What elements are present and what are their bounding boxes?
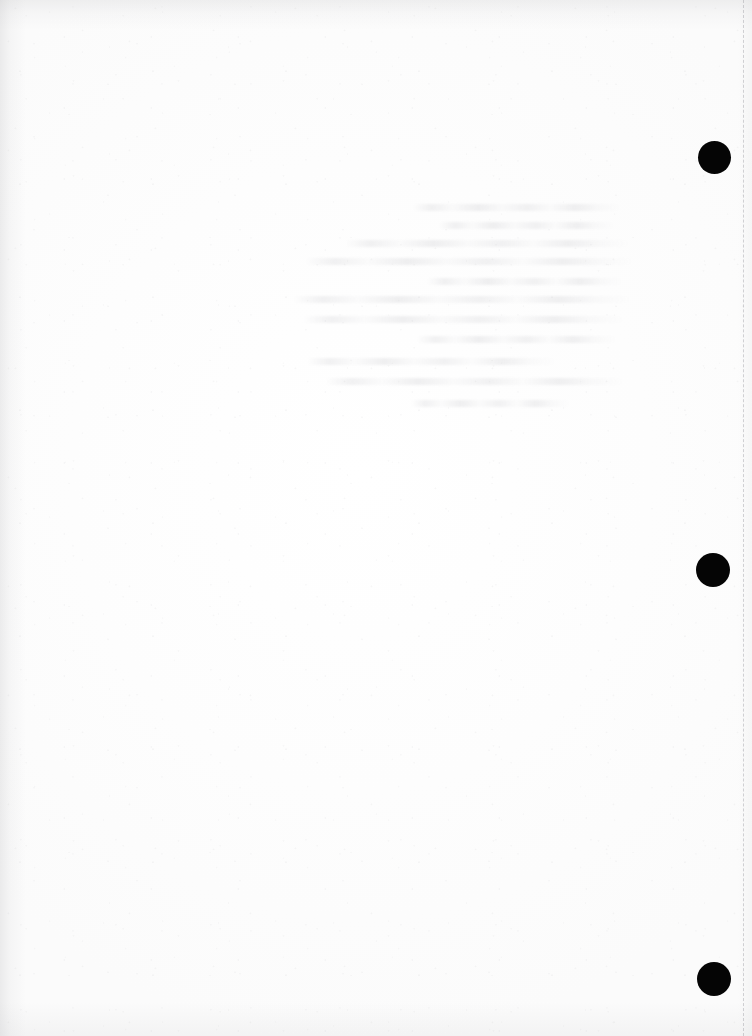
- registration-dot-middle: [696, 553, 730, 587]
- paper-grain-texture: [0, 0, 752, 1036]
- page-edge-shadow-left: [0, 0, 26, 1036]
- page-edge-shadow-right: [738, 0, 752, 1036]
- page-edge-shadow-bottom: [0, 1002, 752, 1036]
- page-edge-shadow-top: [0, 0, 752, 30]
- scanned-document-page: [0, 0, 752, 1036]
- registration-dot-top: [698, 141, 731, 174]
- dashed-margin-guide-line: [743, 0, 744, 1036]
- registration-dot-bottom: [697, 962, 731, 996]
